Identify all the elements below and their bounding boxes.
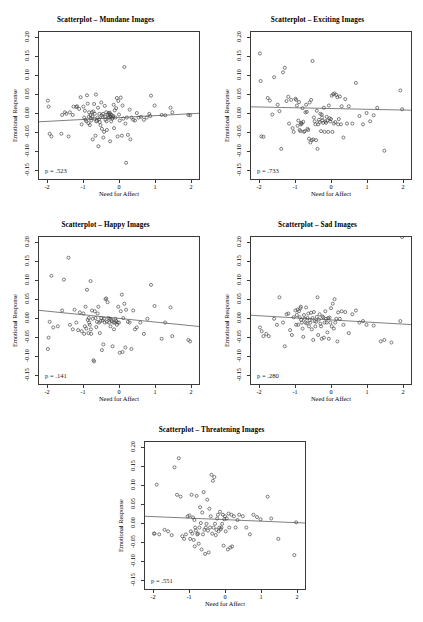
x-tick-mark (367, 385, 368, 388)
data-point (142, 118, 145, 121)
x-tick-label: 1 (148, 183, 162, 190)
data-point (211, 479, 214, 482)
data-point (197, 542, 200, 545)
data-point (68, 323, 71, 326)
data-point (98, 332, 101, 335)
data-point (289, 329, 292, 332)
x-tick-label: -1 (76, 183, 90, 190)
data-point (121, 104, 124, 107)
y-tick-label: 0.20 (23, 24, 30, 48)
data-point (195, 494, 198, 497)
data-point (50, 274, 53, 277)
data-point (338, 317, 341, 320)
data-point (329, 321, 332, 324)
data-point (290, 333, 293, 336)
data-point (212, 526, 215, 529)
data-point (297, 119, 300, 122)
data-point (86, 102, 89, 105)
data-point (98, 121, 101, 124)
data-point (315, 139, 318, 142)
regression-line (39, 113, 199, 121)
data-point (216, 513, 219, 516)
data-point (52, 326, 55, 329)
x-tick-label: -2 (40, 388, 54, 395)
data-point (116, 135, 119, 138)
x-tick-mark (367, 180, 368, 183)
data-point (206, 529, 209, 532)
data-point (358, 115, 361, 118)
x-tick-mark (83, 385, 84, 388)
data-point (283, 66, 286, 69)
data-point (372, 114, 375, 117)
data-point (124, 122, 127, 125)
data-point (103, 130, 106, 133)
data-point (234, 526, 237, 529)
data-point (71, 328, 74, 331)
p-value-annotation: p = .551 (151, 577, 173, 584)
data-point (139, 321, 142, 324)
panel-title: Scatterplot – Exciting Images (212, 16, 423, 24)
x-tick-mark (191, 180, 192, 183)
data-point (96, 106, 99, 109)
data-point (305, 306, 308, 309)
x-tick-mark (191, 385, 192, 388)
data-point (329, 307, 332, 310)
data-point (271, 113, 274, 116)
data-point (135, 326, 138, 329)
data-point (199, 506, 202, 509)
x-tick-label: 0 (112, 183, 126, 190)
data-point (133, 328, 136, 331)
data-point (117, 99, 120, 102)
data-point (344, 310, 347, 313)
panel-title: Scatterplot – Threatening Images (106, 426, 317, 434)
x-axis-label: Need for Affect (38, 190, 200, 197)
data-point (126, 133, 129, 136)
x-axis-label: Need for Affect (144, 600, 306, 607)
data-point (248, 533, 251, 536)
data-point (196, 532, 199, 535)
x-tick-label: -1 (288, 183, 302, 190)
data-point (342, 136, 345, 139)
data-point (100, 127, 103, 130)
data-point (94, 134, 97, 137)
data-point (210, 473, 213, 476)
data-point (160, 337, 163, 340)
data-point (179, 495, 182, 498)
x-tick-label: -1 (288, 388, 302, 395)
data-point (123, 66, 126, 69)
x-tick-mark (295, 385, 296, 388)
data-point (277, 537, 280, 540)
data-point (241, 515, 244, 518)
data-point (155, 483, 158, 486)
data-point (317, 333, 320, 336)
data-point (255, 515, 258, 518)
data-point (120, 134, 123, 137)
data-point (214, 534, 217, 537)
data-point (327, 337, 330, 340)
regression-line (251, 107, 411, 110)
data-point (331, 302, 334, 305)
data-point (283, 345, 286, 348)
data-point (56, 325, 59, 328)
x-tick-mark (119, 180, 120, 183)
data-point (267, 335, 270, 338)
data-point (77, 329, 80, 332)
x-tick-mark (403, 385, 404, 388)
data-point (83, 109, 86, 112)
data-point (333, 298, 336, 301)
x-tick-label: 2 (184, 388, 198, 395)
data-point (83, 332, 86, 335)
data-point (100, 101, 103, 104)
data-point (354, 309, 357, 312)
data-point (316, 147, 319, 150)
scatter-panel-2: Scatterplot – Exciting ImagesEmotional R… (212, 0, 423, 205)
data-point (259, 79, 262, 82)
data-point (204, 526, 207, 529)
x-tick-mark (47, 385, 48, 388)
data-point (109, 325, 112, 328)
data-point (117, 305, 120, 308)
data-point (85, 94, 88, 97)
x-tick-label: 0 (112, 388, 126, 395)
data-point (135, 112, 138, 115)
x-tick-mark (47, 180, 48, 183)
